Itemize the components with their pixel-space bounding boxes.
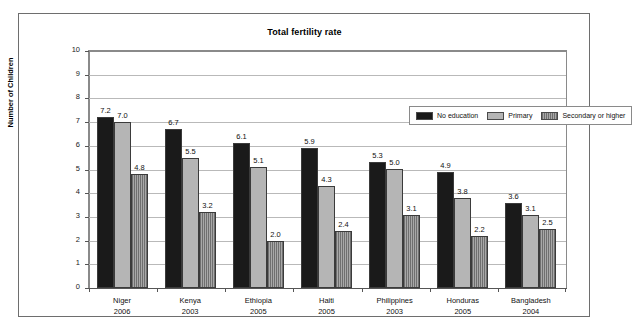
- y-tick-label-0: 0: [58, 282, 80, 291]
- bar-value-label: 6.1: [229, 132, 255, 141]
- legend-swatch-no-education: [416, 112, 433, 120]
- bar-value-label: 2.5: [535, 218, 561, 227]
- bar: [199, 212, 216, 288]
- y-tick-mark-3: [85, 217, 89, 218]
- legend-label-secondary-or-higher: Secondary or higher: [562, 112, 625, 119]
- bar: [97, 117, 114, 288]
- bar: [403, 215, 420, 288]
- bar: [250, 167, 267, 288]
- y-tick-mark-2: [85, 241, 89, 242]
- legend-item-primary: Primary: [487, 112, 532, 120]
- x-group-tick: [565, 288, 566, 292]
- x-group-tick: [362, 288, 363, 292]
- x-axis-country-name: Honduras: [447, 296, 480, 305]
- x-group-tick: [293, 288, 294, 292]
- gridline-10: [89, 51, 566, 52]
- bar-value-label: 3.1: [518, 204, 544, 213]
- x-group-tick: [157, 288, 158, 292]
- legend-swatch-primary: [487, 112, 504, 120]
- x-axis-country-name: Niger: [113, 296, 131, 305]
- bar-value-label: 4.8: [127, 163, 153, 172]
- bar: [318, 186, 335, 288]
- x-axis-label-bangladesh: Bangladesh2004: [491, 295, 571, 317]
- bar-value-label: 6.7: [161, 118, 187, 127]
- gridline-6: [89, 146, 566, 147]
- y-tick-mark-5: [85, 170, 89, 171]
- gridline-5: [89, 170, 566, 171]
- legend-label-primary: Primary: [508, 112, 532, 119]
- y-tick-mark-6: [85, 146, 89, 147]
- legend-swatch-secondary-or-higher: [541, 112, 558, 120]
- x-axis-country-name: Bangladesh: [511, 296, 551, 305]
- bar-value-label: 4.9: [433, 161, 459, 170]
- bar: [114, 122, 131, 288]
- plot-right-edge: [566, 51, 567, 288]
- bar-value-label: 2.4: [331, 220, 357, 229]
- bar: [386, 169, 403, 288]
- bar-value-label: 5.0: [382, 158, 408, 167]
- bar: [505, 203, 522, 288]
- x-group-tick: [225, 288, 226, 292]
- x-axis-country-name: Philippines: [377, 296, 413, 305]
- y-tick-label-3: 3: [58, 211, 80, 220]
- bar: [369, 162, 386, 288]
- bar-value-label: 3.1: [399, 204, 425, 213]
- bar-value-label: 4.3: [314, 175, 340, 184]
- bar: [471, 236, 488, 288]
- y-tick-mark-9: [85, 75, 89, 76]
- y-tick-label-4: 4: [58, 187, 80, 196]
- legend-label-no-education: No education: [437, 112, 478, 119]
- y-tick-label-10: 10: [58, 45, 80, 54]
- bar: [301, 148, 318, 288]
- y-tick-label-8: 8: [58, 92, 80, 101]
- y-axis-label: Number of Children: [6, 13, 15, 173]
- y-tick-mark-10: [85, 51, 89, 52]
- bar: [335, 231, 352, 288]
- y-tick-label-1: 1: [58, 258, 80, 267]
- bar-value-label: 3.2: [195, 201, 221, 210]
- bar: [182, 158, 199, 288]
- x-group-tick: [89, 288, 90, 292]
- x-axis-country-name: Kenya: [180, 296, 201, 305]
- y-tick-label-9: 9: [58, 69, 80, 78]
- bar: [454, 198, 471, 288]
- x-group-tick: [430, 288, 431, 292]
- legend-item-no-education: No education: [416, 112, 478, 120]
- y-tick-mark-1: [85, 264, 89, 265]
- y-tick-label-7: 7: [58, 116, 80, 125]
- y-tick-mark-4: [85, 193, 89, 194]
- bar: [131, 174, 148, 288]
- plot-area: 7.27.04.86.75.53.26.15.12.05.94.32.45.35…: [88, 50, 567, 289]
- bar-value-label: 2.2: [467, 225, 493, 234]
- bar-value-label: 5.9: [297, 137, 323, 146]
- gridline-8: [89, 98, 566, 99]
- x-axis-year: 2004: [491, 306, 571, 317]
- y-tick-label-6: 6: [58, 140, 80, 149]
- bar: [539, 229, 556, 288]
- bar-value-label: 5.1: [246, 156, 272, 165]
- y-tick-mark-8: [85, 98, 89, 99]
- bar-value-label: 3.6: [501, 192, 527, 201]
- y-tick-label-2: 2: [58, 235, 80, 244]
- x-axis-country-name: Haiti: [319, 296, 334, 305]
- bar-value-label: 5.5: [178, 147, 204, 156]
- bar-value-label: 7.0: [110, 111, 136, 120]
- bar: [267, 241, 284, 288]
- bar-value-label: 2.0: [263, 230, 289, 239]
- x-group-tick: [498, 288, 499, 292]
- y-tick-mark-7: [85, 122, 89, 123]
- legend-item-secondary-or-higher: Secondary or higher: [541, 112, 625, 120]
- y-tick-label-5: 5: [58, 164, 80, 173]
- bar-value-label: 3.8: [450, 187, 476, 196]
- gridline-9: [89, 75, 566, 76]
- x-axis-line: [89, 288, 567, 289]
- chart-legend: No education Primary Secondary or higher: [409, 106, 632, 125]
- x-axis-country-name: Ethiopia: [245, 296, 272, 305]
- chart-title: Total fertility rate: [0, 27, 609, 37]
